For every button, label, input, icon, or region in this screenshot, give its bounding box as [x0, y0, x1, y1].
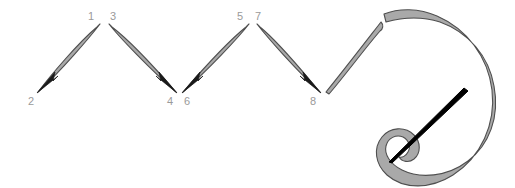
stitch-final-rising-body: [326, 22, 383, 94]
stitch-final-rising: [326, 22, 383, 94]
point-label-5: 5: [237, 10, 243, 22]
stitch-3-to-4: [109, 24, 177, 93]
point-label-1: 1: [88, 10, 94, 22]
point-label-2: 2: [28, 95, 34, 107]
point-label-3: 3: [110, 10, 116, 22]
stitch-diagram: 1 3 2 4 6 5 7 8: [0, 0, 515, 188]
needle-group: [389, 88, 468, 163]
stitch-diagram-canvas: 1 3 2 4 6 5 7 8: [0, 0, 515, 188]
stitch-7-to-8: [257, 24, 321, 93]
needle: [389, 88, 468, 163]
point-label-7: 7: [255, 10, 261, 22]
point-label-4: 4: [167, 95, 173, 107]
point-label-8: 8: [310, 95, 316, 107]
stitch-5-to-6: [182, 24, 249, 93]
point-label-6: 6: [184, 95, 190, 107]
stitch-1-to-2: [37, 24, 100, 93]
